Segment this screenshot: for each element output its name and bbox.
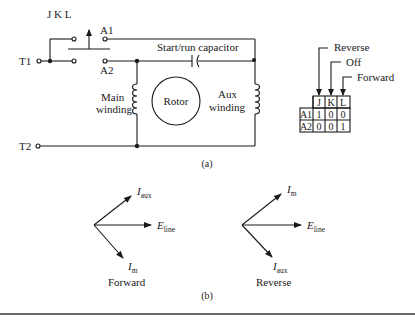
capacitor-icon: [192, 55, 199, 67]
cell-a2-l: 1: [341, 121, 346, 132]
main-winding-coil-icon: [133, 84, 138, 114]
col-l: L: [340, 97, 346, 108]
reverse-lower-vector-label: Iaux: [272, 260, 288, 275]
forward-upper-vector-label: Iaux: [136, 185, 152, 200]
off-pointer-arrow-icon: [331, 62, 341, 95]
t2-label: T2: [19, 140, 31, 152]
t2-terminal-icon: [36, 144, 40, 148]
forward-middle-vector-label: Eline: [156, 219, 176, 234]
page-bottom-rule: [0, 313, 415, 315]
off-label: Off: [346, 56, 361, 68]
contact-a2-label: A2: [100, 64, 113, 76]
t1-label: T1: [19, 55, 31, 67]
contact-a1-label: A1: [100, 24, 113, 36]
main-winding-label-line2: winding: [96, 103, 133, 115]
capacitor-label: Start/run capacitor: [157, 41, 239, 53]
reverse-title: Reverse: [256, 276, 292, 288]
main-winding-label-line1: Main: [101, 91, 125, 103]
aux-winding-label-line2: winding: [209, 101, 246, 113]
reverse-middle-vector-label: Eline: [306, 219, 326, 234]
aux-winding-label-line1: Aux: [218, 88, 237, 100]
col-j: J: [317, 97, 321, 108]
cell-a2-k: 0: [329, 121, 334, 132]
cell-a2-j: 0: [317, 121, 322, 132]
switch-label: J K L: [47, 8, 72, 20]
row-a1-label: A1: [300, 109, 312, 120]
reverse-pointer-arrow-icon: [319, 48, 328, 95]
reverse-upper-vector-label: Im: [286, 183, 297, 198]
forward-lower-vector-label: Im: [127, 260, 138, 275]
phasor-reverse: [242, 194, 301, 257]
forward-pointer-arrow-icon: [343, 77, 352, 95]
row-a2-label: A2: [300, 121, 312, 132]
reverse-label: Reverse: [334, 41, 370, 53]
aux-winding-coil-icon: [255, 84, 260, 114]
phasor-forward: [94, 196, 151, 258]
motor-reversing-diagram: J K L A1 A2 T1 T2 Start/run capacitor Ma…: [0, 0, 415, 320]
caption-a: (a): [201, 158, 212, 170]
forward-title: Forward: [108, 276, 146, 288]
rotor-label: Rotor: [163, 95, 188, 107]
cell-a1-l: 0: [341, 109, 346, 120]
t1-terminal-icon: [37, 59, 41, 63]
cell-a1-k: 0: [329, 109, 334, 120]
forward-label: Forward: [357, 71, 395, 83]
col-k: K: [327, 97, 335, 108]
cell-a1-j: 1: [317, 109, 322, 120]
caption-b: (b): [201, 290, 213, 302]
